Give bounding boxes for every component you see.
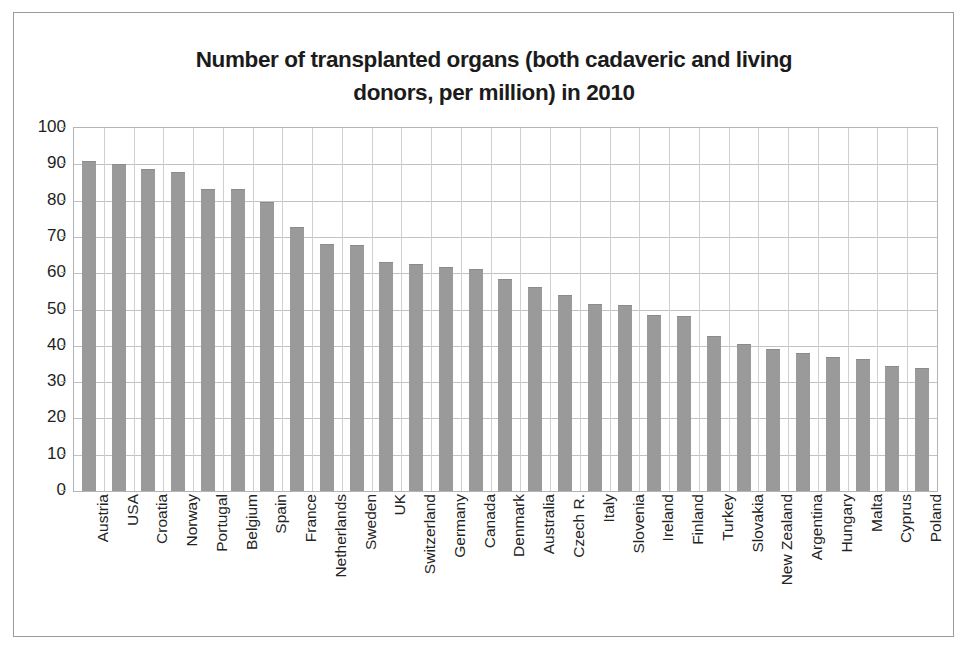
x-axis-tick-label: Denmark (510, 494, 528, 557)
category-separator (907, 128, 908, 491)
bar[interactable] (320, 244, 334, 491)
category-separator (193, 128, 194, 491)
category-separator (401, 128, 402, 491)
bar[interactable] (766, 349, 780, 491)
bar[interactable] (469, 269, 483, 491)
bar[interactable] (498, 279, 512, 491)
bar[interactable] (558, 295, 572, 491)
y-axis-tick-mark (61, 163, 66, 164)
category-separator (104, 128, 105, 491)
bar[interactable] (647, 315, 661, 491)
y-axis-tick-label: 10 (24, 445, 66, 462)
chart-title-line-2: donors, per million) in 2010 (94, 76, 894, 109)
x-axis-tick-label: USA (124, 494, 142, 526)
x-axis-tick-label: Poland (927, 494, 945, 542)
x-axis-tick-label: UK (391, 494, 409, 516)
bar[interactable] (290, 227, 304, 491)
x-axis-tick-label: Finland (689, 494, 707, 545)
y-axis-tick-label: 50 (24, 300, 66, 317)
bar[interactable] (409, 264, 423, 491)
bar[interactable] (588, 304, 602, 491)
x-axis-tick-label: Italy (600, 494, 618, 522)
category-separator (253, 128, 254, 491)
x-axis-tick-label: Germany (451, 494, 469, 558)
x-axis-tick-label: Switzerland (421, 494, 439, 574)
x-axis-tick-label: Portugal (213, 494, 231, 552)
y-axis-tick-label: 100 (24, 118, 66, 135)
bar[interactable] (350, 245, 364, 491)
y-axis-tick-label: 30 (24, 372, 66, 389)
category-separator (282, 128, 283, 491)
x-axis-tick-label: Slovakia (749, 494, 767, 553)
y-axis-tick-mark (61, 272, 66, 273)
category-separator (848, 128, 849, 491)
bar[interactable] (707, 336, 721, 491)
y-axis-tick-mark (61, 309, 66, 310)
bar[interactable] (141, 169, 155, 491)
chart-page: Number of transplanted organs (both cada… (0, 0, 966, 653)
y-axis-tick-label: 40 (24, 336, 66, 353)
category-separator (134, 128, 135, 491)
bar[interactable] (201, 189, 215, 491)
bar[interactable] (82, 161, 96, 491)
x-axis-tick-label: Belgium (243, 494, 261, 550)
category-separator (580, 128, 581, 491)
bar[interactable] (379, 262, 393, 491)
x-axis-tick-label: Argentina (808, 494, 826, 560)
y-axis-tick-mark (61, 200, 66, 201)
category-separator (491, 128, 492, 491)
bar[interactable] (618, 305, 632, 491)
x-axis-tick-label: Czech R. (570, 494, 588, 558)
chart-title-line-1: Number of transplanted organs (both cada… (94, 43, 894, 76)
chart-title: Number of transplanted organs (both cada… (94, 43, 894, 109)
y-axis-tick-label: 0 (24, 481, 66, 498)
category-separator (163, 128, 164, 491)
category-separator (669, 128, 670, 491)
x-axis-tick-label: Sweden (362, 494, 380, 550)
bar[interactable] (737, 344, 751, 491)
category-separator (788, 128, 789, 491)
bar[interactable] (439, 267, 453, 491)
y-axis-tick-mark (61, 127, 66, 128)
category-separator (312, 128, 313, 491)
category-separator (877, 128, 878, 491)
bar[interactable] (885, 366, 899, 491)
x-axis-tick-label: Norway (183, 494, 201, 547)
bar[interactable] (231, 189, 245, 491)
gridline (74, 164, 937, 165)
category-separator (223, 128, 224, 491)
category-separator (758, 128, 759, 491)
bar[interactable] (171, 172, 185, 491)
bar[interactable] (112, 164, 126, 491)
bar[interactable] (826, 357, 840, 491)
y-axis-tick-label: 90 (24, 154, 66, 171)
category-separator (699, 128, 700, 491)
y-axis-tick-mark (61, 381, 66, 382)
bar[interactable] (677, 316, 691, 491)
y-axis-tick-mark (61, 417, 66, 418)
category-separator (818, 128, 819, 491)
bar[interactable] (796, 353, 810, 491)
y-axis-tick-label: 20 (24, 408, 66, 425)
x-axis-tick-label: Croatia (153, 494, 171, 544)
x-axis-tick-label: Austria (94, 494, 112, 542)
y-axis-tick-mark (61, 454, 66, 455)
category-separator (461, 128, 462, 491)
category-separator (729, 128, 730, 491)
x-axis-tick-label: Hungary (838, 494, 856, 553)
bar[interactable] (915, 368, 929, 491)
y-axis-tick-mark (61, 490, 66, 491)
y-axis-tick-label: 70 (24, 227, 66, 244)
bar[interactable] (260, 202, 274, 491)
bar[interactable] (856, 359, 870, 491)
x-axis-tick-label: Ireland (659, 494, 677, 541)
category-separator (520, 128, 521, 491)
x-axis-tick-label: Netherlands (332, 494, 350, 578)
bar[interactable] (528, 287, 542, 491)
x-axis-tick-label: New Zealand (778, 494, 796, 585)
category-separator (610, 128, 611, 491)
y-axis-tick-mark (61, 236, 66, 237)
x-axis-tick-label: France (302, 494, 320, 542)
x-axis-tick-label: Slovenia (630, 494, 648, 553)
x-axis-tick-label: Australia (540, 494, 558, 554)
